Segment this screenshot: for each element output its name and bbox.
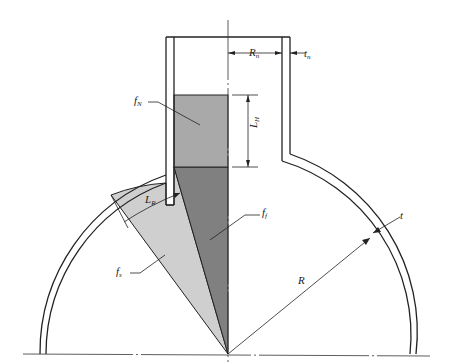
arrow-LH-top: [246, 95, 250, 102]
diagram-canvas: [0, 0, 452, 362]
region-fN: [174, 95, 228, 167]
arrow-Rn-right: [275, 51, 282, 55]
dim-R: [228, 238, 370, 354]
label-fN: fN: [134, 95, 142, 108]
label-R: R: [298, 275, 305, 286]
label-tn: tn: [304, 48, 311, 61]
label-fs: fs: [116, 266, 122, 279]
sphere-wall: [40, 154, 417, 354]
label-ff: ff: [262, 207, 267, 220]
label-Rn: Rn: [249, 47, 259, 60]
tank-diagram: fN ff fs Rn tn LH LR t R: [0, 0, 452, 362]
label-t: t: [400, 210, 403, 221]
arrow-t: [373, 227, 381, 233]
label-LR: LR: [145, 194, 155, 207]
dim-LH: [232, 95, 258, 167]
arrow-Rn-left: [228, 51, 235, 55]
arrow-tn: [290, 51, 297, 55]
base-axis: [23, 354, 430, 356]
arrow-LH-bottom: [246, 160, 250, 167]
label-LH: LH: [248, 117, 261, 128]
